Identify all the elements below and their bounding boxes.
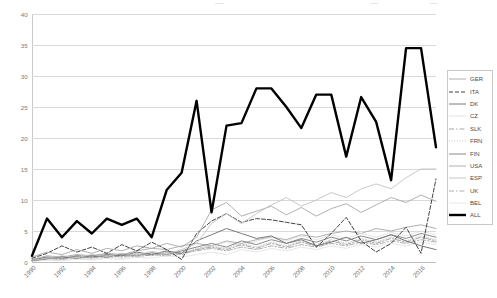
legend-label: CZ [470, 113, 478, 119]
legend-label: ESP [470, 175, 482, 181]
legend-item-fin[interactable]: FIN [448, 147, 490, 159]
y-tick-label-0: 0 [24, 259, 28, 266]
x-tick-label-2006: 2006 [262, 264, 277, 279]
legend-swatch-usa-icon [448, 162, 467, 170]
x-tick-label-1992: 1992 [52, 264, 67, 279]
y-tick-label-25: 25 [21, 104, 28, 111]
series-lines [32, 14, 436, 262]
y-tick-label-30: 30 [21, 73, 28, 80]
scan-artifact [370, 3, 378, 4]
y-tick-label-40: 40 [21, 11, 28, 18]
y-tick-label-15: 15 [21, 166, 28, 173]
plot-area [32, 14, 436, 262]
legend-swatch-fin-icon [448, 150, 467, 158]
legend: GERITADKCZSLKFRNFINUSAESPUKBELALL [447, 70, 493, 225]
legend-label: UK [470, 188, 478, 194]
series-line-esp [32, 169, 436, 260]
legend-item-cz[interactable]: CZ [448, 110, 490, 122]
x-tick-label-2016: 2016 [411, 264, 426, 279]
legend-swatch-uk-icon [448, 187, 467, 195]
series-line-uk [32, 240, 436, 261]
scan-artifact [430, 3, 438, 4]
legend-label: USA [470, 163, 482, 169]
x-tick-label-2000: 2000 [172, 264, 187, 279]
x-tick-label-2008: 2008 [292, 264, 307, 279]
legend-label: DK [470, 101, 478, 107]
legend-swatch-bel-icon [448, 199, 467, 207]
line-chart: 0510152025303540 19901992199419961998200… [0, 0, 497, 298]
y-tick-label-20: 20 [21, 135, 28, 142]
legend-item-ger[interactable]: GER [448, 73, 490, 85]
legend-item-all[interactable]: ALL [448, 209, 490, 221]
legend-swatch-frn-icon [448, 137, 467, 145]
legend-item-frn[interactable]: FRN [448, 135, 490, 147]
legend-swatch-esp-icon [448, 174, 467, 182]
legend-item-usa[interactable]: USA [448, 160, 490, 172]
legend-swatch-all-icon [448, 211, 467, 219]
x-tick-label-2010: 2010 [322, 264, 337, 279]
legend-item-esp[interactable]: ESP [448, 172, 490, 184]
x-tick-label-1998: 1998 [142, 264, 157, 279]
legend-label: FIN [470, 151, 480, 157]
legend-item-ita[interactable]: ITA [448, 85, 490, 97]
legend-item-uk[interactable]: UK [448, 185, 490, 197]
x-tick-label-2002: 2002 [202, 264, 217, 279]
legend-swatch-ger-icon [448, 75, 467, 83]
legend-label: BEL [470, 200, 481, 206]
legend-swatch-dk-icon [448, 100, 467, 108]
legend-label: ALL [470, 212, 481, 218]
series-line-all [32, 48, 436, 256]
y-tick-label-35: 35 [21, 42, 28, 49]
x-tick-label-2004: 2004 [232, 264, 247, 279]
legend-label: GER [470, 76, 483, 82]
series-line-usa [32, 195, 436, 257]
x-tick-label-1996: 1996 [112, 264, 127, 279]
x-tick-label-2014: 2014 [381, 264, 396, 279]
y-tick-label-10: 10 [21, 197, 28, 204]
x-tick-label-1990: 1990 [22, 264, 37, 279]
scan-artifact [215, 3, 224, 4]
legend-label: ITA [470, 89, 479, 95]
legend-label: FRN [470, 138, 482, 144]
legend-label: SLK [470, 126, 481, 132]
x-tick-label-1994: 1994 [82, 264, 97, 279]
legend-item-dk[interactable]: DK [448, 98, 490, 110]
x-axis-labels: 1990199219941996199820002002200420062008… [32, 264, 436, 298]
legend-swatch-cz-icon [448, 112, 467, 120]
y-tick-label-5: 5 [24, 228, 28, 235]
legend-swatch-slk-icon [448, 125, 467, 133]
legend-item-slk[interactable]: SLK [448, 123, 490, 135]
legend-item-bel[interactable]: BEL [448, 197, 490, 209]
x-tick-label-2012: 2012 [351, 264, 366, 279]
gridline-0 [32, 262, 436, 263]
y-axis-labels: 0510152025303540 [0, 14, 28, 262]
legend-swatch-ita-icon [448, 88, 467, 96]
series-line-bel [32, 242, 436, 261]
